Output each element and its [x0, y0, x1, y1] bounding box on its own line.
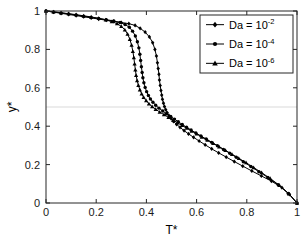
series-marker [128, 26, 131, 29]
series-marker [132, 56, 136, 60]
y-tick-label: 0.4 [25, 120, 40, 132]
series-marker [136, 83, 140, 87]
y-tick-label: 0.2 [25, 159, 40, 171]
series-marker [118, 21, 121, 24]
series-marker [158, 83, 161, 87]
x-axis-title: T* [166, 223, 178, 237]
series-marker [141, 76, 144, 79]
series-marker [153, 47, 156, 51]
legend-exponent: -6 [268, 56, 275, 65]
series-marker [138, 88, 142, 92]
series-marker [135, 78, 139, 82]
x-tick-label: 0.2 [89, 206, 104, 218]
series-marker [136, 40, 139, 43]
series-marker [147, 94, 150, 97]
series-marker [140, 92, 144, 96]
series-marker [217, 151, 220, 155]
series-marker [156, 61, 159, 65]
x-tick-label: 0.6 [189, 206, 204, 218]
legend-label: Da = 10-2 [229, 17, 275, 31]
y-tick-label: 1 [34, 5, 40, 17]
legend-exponent: -2 [268, 17, 275, 26]
series-marker [157, 106, 160, 109]
series-marker [133, 23, 136, 27]
legend-label: Da = 10-6 [229, 56, 275, 70]
series-marker [133, 62, 137, 66]
series-marker [143, 86, 146, 89]
legend[interactable]: Da = 10-2Da = 10-4Da = 10-6 [200, 15, 293, 73]
series-marker [128, 37, 132, 41]
series-marker [131, 29, 134, 32]
series-marker [139, 59, 142, 62]
series-marker [241, 164, 244, 168]
series-marker [158, 78, 161, 82]
series-marker [151, 101, 154, 104]
series-marker [123, 23, 126, 26]
series-marker [157, 72, 160, 76]
series-marker [149, 97, 152, 100]
series-marker [140, 71, 143, 74]
series-marker [210, 147, 213, 151]
series-marker [119, 24, 123, 28]
y-tick-label: 0.8 [25, 43, 40, 55]
series-marker [192, 135, 195, 139]
series-marker [134, 73, 138, 77]
x-tick-label: 0.4 [139, 206, 154, 218]
x-tick-label: 0 [43, 206, 49, 218]
series-marker [224, 155, 227, 159]
series-marker [250, 169, 253, 173]
series-marker [155, 54, 158, 58]
series-marker [161, 109, 164, 112]
series-marker [133, 68, 137, 72]
series-marker [137, 46, 140, 49]
series-marker [140, 65, 143, 68]
series-marker [138, 53, 141, 56]
y-tick-label: 0.6 [25, 82, 40, 94]
series-marker [233, 159, 236, 163]
series-marker [203, 143, 206, 147]
x-tick-label: 0.8 [239, 206, 254, 218]
series-marker [142, 95, 146, 99]
series-marker [131, 49, 135, 53]
series-marker [160, 93, 163, 97]
y-tick-label: 0 [34, 197, 40, 209]
series-marker [197, 139, 200, 143]
series-marker [162, 101, 165, 105]
series-marker [145, 90, 148, 93]
series-marker [159, 88, 162, 92]
y-axis-title: y* [5, 101, 19, 112]
series-marker [129, 43, 133, 47]
series-marker [154, 104, 157, 107]
legend-label: Da = 10-4 [229, 37, 275, 51]
legend-exponent: -4 [268, 37, 275, 46]
figure-canvas: 00.20.40.60.8100.20.40.60.81T*y*Da = 10-… [0, 0, 308, 240]
series-marker [134, 34, 137, 37]
series-marker [156, 67, 159, 71]
legend-marker-circle-icon [213, 42, 217, 46]
x-tick-label: 1 [294, 206, 300, 218]
series-marker [161, 97, 164, 101]
series-marker [142, 81, 145, 84]
chart-svg: 00.20.40.60.8100.20.40.60.81T*y*Da = 10-… [0, 0, 308, 240]
series-marker [127, 22, 130, 26]
